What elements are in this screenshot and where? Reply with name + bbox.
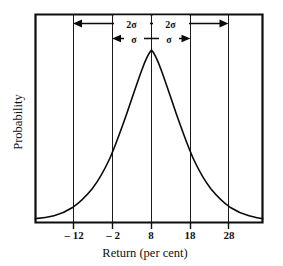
x-tick-label-minus-2: – 2	[105, 229, 120, 241]
one-sigma-left-arrowhead	[112, 35, 121, 42]
two-sigma-annotation-row: 2σ 2σ	[73, 16, 229, 32]
x-tick-label-18: 18	[185, 229, 197, 241]
gridlines	[74, 15, 229, 223]
x-tick-label-minus-12: – 12	[63, 229, 84, 241]
x-tick-label-28: 28	[224, 229, 236, 241]
two-sigma-left-arrowhead	[73, 20, 82, 28]
normal-distribution-figure: 2σ 2σ σ σ – 12 – 2 8	[0, 0, 283, 266]
two-sigma-right-arrowhead	[220, 20, 229, 28]
one-sigma-right-label: σ	[166, 34, 172, 45]
x-tick-label-8: 8	[148, 229, 154, 241]
one-sigma-left-label: σ	[131, 34, 137, 45]
x-axis-tick-labels: – 12 – 2 8 18 28	[63, 229, 235, 241]
one-sigma-right-arrowhead	[182, 35, 191, 42]
two-sigma-right-label: 2σ	[165, 19, 176, 30]
y-axis-title: Probability	[11, 93, 25, 149]
x-axis-title: Return (per cent)	[102, 246, 187, 260]
two-sigma-left-label: 2σ	[126, 19, 137, 30]
